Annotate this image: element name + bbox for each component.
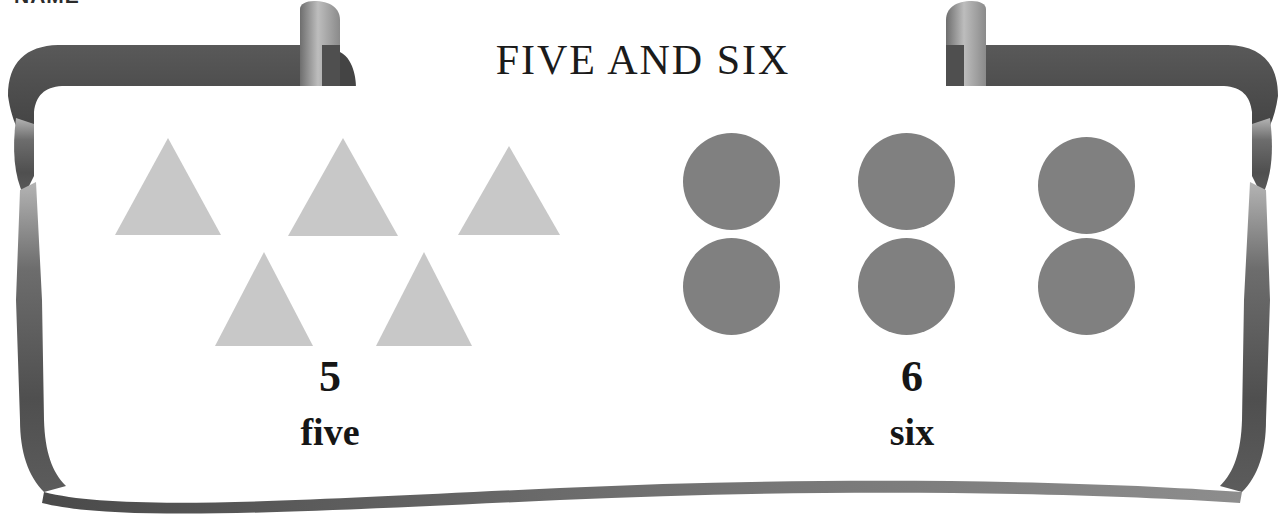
numeral-six: 6 [812,352,1012,402]
circle-shape [1038,137,1135,234]
triangle-shape [288,138,398,236]
ribbon-side-right-long [1220,182,1270,492]
label-block-six: 6 six [812,352,1012,456]
label-block-five: 5 five [230,352,430,456]
worksheet-page: NAME [0,0,1286,516]
circle-shape [683,238,780,335]
triangle-shape [458,146,560,235]
circle-shape [858,238,955,335]
ribbon-side-right [1252,118,1272,196]
triangle-shape [376,252,472,346]
circle-shape [1038,238,1135,335]
circle-shape [858,133,955,230]
ribbon-side-left [14,118,34,196]
ribbon-bottom-wave [42,481,1242,514]
shape-group-six [665,120,1165,360]
triangle-shape [215,252,313,346]
ribbon-side-left-long [16,182,66,492]
name-field-label: NAME [14,0,344,6]
circle-shape [683,133,780,230]
numeral-five: 5 [230,352,430,402]
word-six: six [812,408,1012,456]
word-five: five [230,408,430,456]
page-title: FIVE AND SIX [0,36,1286,84]
triangle-shape [115,138,221,235]
name-label-text: NAME [14,0,80,6]
shape-group-five [90,120,590,360]
